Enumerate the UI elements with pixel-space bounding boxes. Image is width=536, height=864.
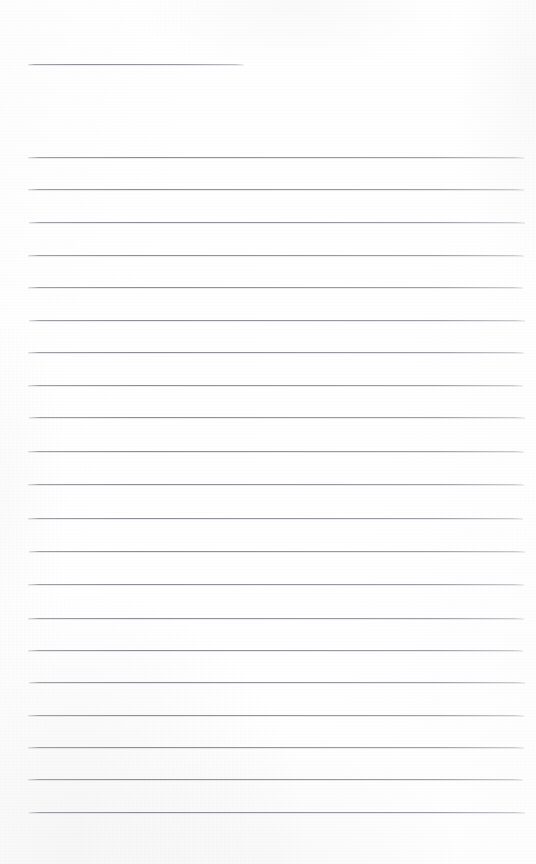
notepad-page xyxy=(0,0,536,864)
writing-area[interactable] xyxy=(28,150,524,822)
